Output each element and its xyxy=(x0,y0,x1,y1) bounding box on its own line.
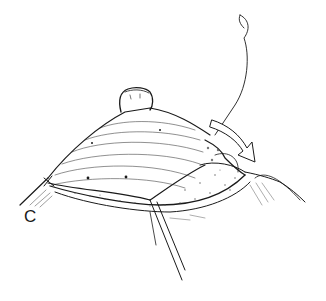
panel-label: C xyxy=(24,208,36,225)
illustration-drawing xyxy=(0,0,326,301)
surgical-illustration xyxy=(0,0,326,301)
